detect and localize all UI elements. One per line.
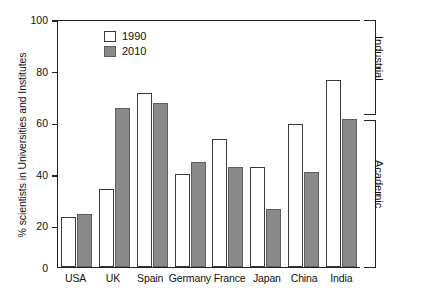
legend-swatch-icon <box>104 31 116 42</box>
bar-japan-1990 <box>250 167 265 267</box>
x-axis-label-india: India <box>323 272 360 284</box>
y-axis-title: % scientists in Universities and Institu… <box>16 20 28 270</box>
bar-group-france <box>209 21 247 267</box>
bar-group-spain <box>134 21 172 267</box>
bar-japan-2010 <box>266 209 281 267</box>
y-tick-label: 0 <box>18 262 48 274</box>
plot-area: 100 80 60 40 20 0 <box>57 20 360 268</box>
bar-china-1990 <box>288 124 303 267</box>
bar-chart: % scientists in Universities and Institu… <box>0 0 424 305</box>
x-axis-label-france: France <box>211 272 248 284</box>
x-axis-label-spain: Spain <box>132 272 169 284</box>
bar-india-1990 <box>326 80 341 267</box>
bar-spain-2010 <box>153 103 168 267</box>
y-tick-label: 80 <box>18 66 48 78</box>
bar-uk-1990 <box>99 189 114 267</box>
bracket-label-academic: Academic <box>373 160 385 208</box>
x-axis-label-usa: USA <box>57 272 94 284</box>
bar-group-japan <box>247 21 285 267</box>
bar-france-2010 <box>228 167 243 267</box>
y-tick-label: 60 <box>18 117 48 129</box>
bar-group-uk <box>96 21 134 267</box>
bar-china-2010 <box>304 172 319 267</box>
legend-label: 1990 <box>122 30 146 42</box>
bar-usa-2010 <box>77 214 92 267</box>
legend-label: 2010 <box>122 45 146 57</box>
bar-group-germany <box>171 21 209 267</box>
bar-france-1990 <box>212 139 227 267</box>
x-axis-label-germany: Germany <box>169 272 211 284</box>
legend-swatch-icon <box>104 46 116 57</box>
bar-uk-2010 <box>115 108 130 267</box>
x-axis-label-uk: UK <box>94 272 131 284</box>
bar-spain-1990 <box>137 93 152 267</box>
bar-group-usa <box>58 21 96 267</box>
bar-germany-2010 <box>191 162 206 267</box>
legend-item-1990: 1990 <box>104 30 146 42</box>
x-axis-label-japan: Japan <box>248 272 285 284</box>
bar-group-india <box>322 21 360 267</box>
x-axis-labels: USAUKSpainGermanyFranceJapanChinaIndia <box>57 272 360 284</box>
bar-groups <box>58 21 360 267</box>
bar-usa-1990 <box>61 217 76 267</box>
bar-germany-1990 <box>175 174 190 267</box>
legend-item-2010: 2010 <box>104 45 146 57</box>
y-tick-label: 100 <box>18 14 48 26</box>
bar-india-2010 <box>342 119 357 267</box>
bracket-label-industrial: Industrial <box>373 36 385 81</box>
x-axis-label-china: China <box>285 272 322 284</box>
y-tick-label: 20 <box>18 220 48 232</box>
legend: 1990 2010 <box>104 30 146 57</box>
y-tick-label: 40 <box>18 169 48 181</box>
bar-group-china <box>285 21 323 267</box>
